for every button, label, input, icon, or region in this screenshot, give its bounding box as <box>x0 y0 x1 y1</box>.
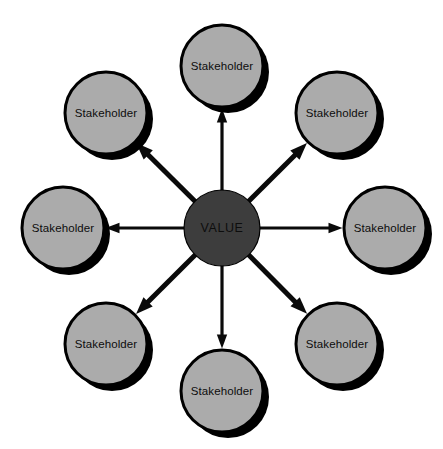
value-flow-arrow-right <box>259 223 343 233</box>
value-flow-arrow-bottom-left <box>136 254 196 314</box>
stakeholder-circle[interactable] <box>22 187 104 269</box>
stakeholder-circle[interactable] <box>344 187 426 269</box>
stakeholder-node-bottom[interactable]: Stakeholder <box>181 350 263 432</box>
stakeholder-node-top-left[interactable]: Stakeholder <box>65 72 147 154</box>
value-flow-arrow-top-right <box>248 143 307 202</box>
value-hub[interactable]: VALUE <box>184 190 260 266</box>
stakeholder-circle[interactable] <box>65 72 147 154</box>
value-flow-arrow-top <box>217 109 227 192</box>
value-flow-arrow-bottom <box>217 265 227 349</box>
value-hub-circle[interactable] <box>184 190 260 266</box>
stakeholder-circle[interactable] <box>181 350 263 432</box>
stakeholder-node-top[interactable]: Stakeholder <box>181 25 263 107</box>
diagram-canvas: StakeholderStakeholderStakeholderStakeho… <box>0 0 443 449</box>
stakeholder-node-right[interactable]: Stakeholder <box>344 187 426 269</box>
value-flow-arrow-left <box>106 223 186 233</box>
stakeholder-node-left[interactable]: Stakeholder <box>22 187 104 269</box>
stakeholder-value-diagram: StakeholderStakeholderStakeholderStakeho… <box>0 0 443 449</box>
value-flow-arrow-bottom-right <box>248 254 307 314</box>
stakeholder-circle[interactable] <box>181 25 263 107</box>
value-flow-arrow-top-left <box>136 143 196 202</box>
stakeholder-circle[interactable] <box>296 72 378 154</box>
stakeholder-circle[interactable] <box>296 303 378 385</box>
stakeholder-node-bottom-right[interactable]: Stakeholder <box>296 303 378 385</box>
stakeholder-node-top-right[interactable]: Stakeholder <box>296 72 378 154</box>
stakeholder-node-bottom-left[interactable]: Stakeholder <box>65 303 147 385</box>
value-hub-layer: VALUE <box>184 190 260 266</box>
stakeholder-circle[interactable] <box>65 303 147 385</box>
